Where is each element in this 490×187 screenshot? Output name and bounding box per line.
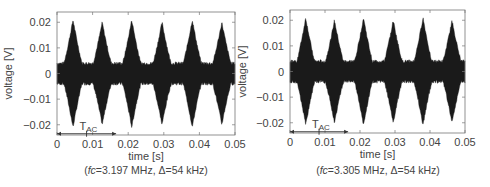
y-tick-label: 0.01 <box>263 40 284 52</box>
signal-waveform <box>57 21 235 128</box>
x-tick-label: 0.05 <box>224 138 245 150</box>
y-axis-label: voltage [V] <box>236 46 248 98</box>
x-tick-label: 0 <box>287 136 293 148</box>
y-tick-label: 0.02 <box>263 14 284 26</box>
x-tick-label: 0.03 <box>153 138 174 150</box>
x-tick-label: 0.01 <box>82 138 103 150</box>
chart-panel-2: 00.010.020.030.040.050.020.010−0.01−0.02… <box>236 10 476 176</box>
figure: 00.010.020.030.040.050.020.010−0.01−0.02… <box>0 0 490 187</box>
period-label: TAC <box>312 118 330 132</box>
period-label-subscript: AC <box>319 123 330 132</box>
x-tick-label: 0 <box>54 138 60 150</box>
x-tick-label: 0.04 <box>419 136 440 148</box>
x-axis-label: time [s] <box>360 148 395 160</box>
y-tick-label: −0.01 <box>256 91 284 103</box>
signal-waveform <box>290 18 465 125</box>
caption-rest: =3.305 MHz, Δ=54 kHz) <box>328 164 440 176</box>
y-tick-label: 0 <box>45 68 51 80</box>
caption-rest: =3.197 MHz, Δ=54 kHz) <box>96 164 208 176</box>
y-tick-label: −0.02 <box>23 119 51 131</box>
period-label: TAC <box>80 120 98 134</box>
y-axis-label: voltage [V] <box>2 48 14 100</box>
y-tick-label: −0.02 <box>256 117 284 129</box>
x-axis-label: time [s] <box>128 150 163 162</box>
y-tick-label: 0 <box>278 66 284 78</box>
period-label-subscript: AC <box>86 125 97 134</box>
x-tick-label: 0.02 <box>349 136 370 148</box>
x-tick-label: 0.04 <box>189 138 210 150</box>
y-tick-label: −0.01 <box>23 93 51 105</box>
chart-panel-1: 00.010.020.030.040.050.020.010−0.01−0.02… <box>2 12 246 176</box>
x-tick-label: 0.05 <box>454 136 475 148</box>
panel-caption: (fc=3.197 MHz, Δ=54 kHz) <box>84 164 208 176</box>
x-tick-label: 0.03 <box>384 136 405 148</box>
x-tick-label: 0.01 <box>314 136 335 148</box>
y-tick-label: 0.01 <box>30 42 51 54</box>
x-tick-label: 0.02 <box>117 138 138 150</box>
y-tick-label: 0.02 <box>30 16 51 28</box>
panel-caption: (fc=3.305 MHz, Δ=54 kHz) <box>316 164 440 176</box>
